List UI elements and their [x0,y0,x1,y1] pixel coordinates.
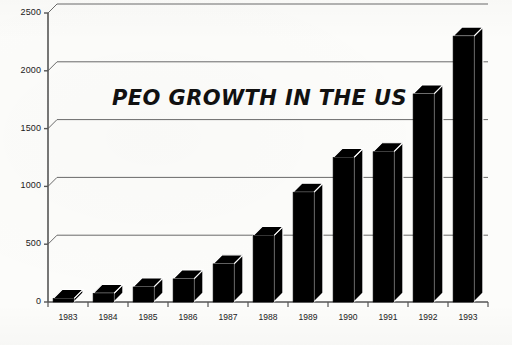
bar-front-face-1985 [133,287,154,302]
bar-front-face-1988 [253,236,274,302]
x-tick-label-1990: 1990 [328,312,368,322]
bar-1985 [133,278,163,302]
x-tick-label-1993: 1993 [448,312,488,322]
bar-front-face-1989 [293,192,314,302]
x-tick-label-1985: 1985 [128,312,168,322]
bar-1990 [333,149,363,303]
bar-side-face-1992 [434,85,443,302]
bar-1988 [253,227,283,302]
bar-group [53,27,483,302]
x-tick-label-1991: 1991 [368,312,408,322]
bar-front-face-1990 [333,158,354,303]
bar-1984 [93,284,123,302]
bar-side-face-1991 [394,143,403,302]
bar-front-face-1986 [173,279,194,302]
y-tick-label-500: 500 [2,238,41,248]
x-tick-label-1983: 1983 [48,312,88,322]
x-tick-label-1989: 1989 [288,312,328,322]
gridline-2500 [48,4,488,13]
bar-1991 [373,143,403,302]
gridline-2000 [48,62,488,71]
bar-side-face-1993 [474,27,483,302]
bar-1989 [293,183,323,302]
chart-figure: 05001000150020002500 1983198419851986198… [0,0,512,345]
bar-1986 [173,270,203,302]
y-tick-label-1000: 1000 [2,180,41,190]
x-tick-label-1986: 1986 [168,312,208,322]
y-tick-label-0: 0 [2,296,41,306]
x-tick-label-1992: 1992 [408,312,448,322]
x-tick-label-1987: 1987 [208,312,248,322]
x-tick-label-1984: 1984 [88,312,128,322]
x-tick-label-1988: 1988 [248,312,288,322]
bar-1993 [453,27,483,302]
bar-side-face-1988 [274,227,283,302]
bar-1987 [213,255,243,302]
chart-title: PEO GROWTH IN THE US [112,86,407,110]
chart-plot-area [0,0,512,345]
bar-front-face-1993 [453,36,474,302]
bar-front-face-1991 [373,152,394,302]
bar-front-face-1987 [213,264,234,302]
y-tick-label-2500: 2500 [2,7,41,17]
y-tick-label-2000: 2000 [2,65,41,75]
bar-1983 [53,290,83,302]
bar-front-face-1984 [93,293,114,302]
y-tick-label-1500: 1500 [2,123,41,133]
bar-front-face-1983 [53,299,74,302]
bar-1992 [413,85,443,302]
bar-front-face-1992 [413,94,434,302]
bar-side-face-1990 [354,149,363,303]
bar-side-face-1989 [314,183,323,302]
